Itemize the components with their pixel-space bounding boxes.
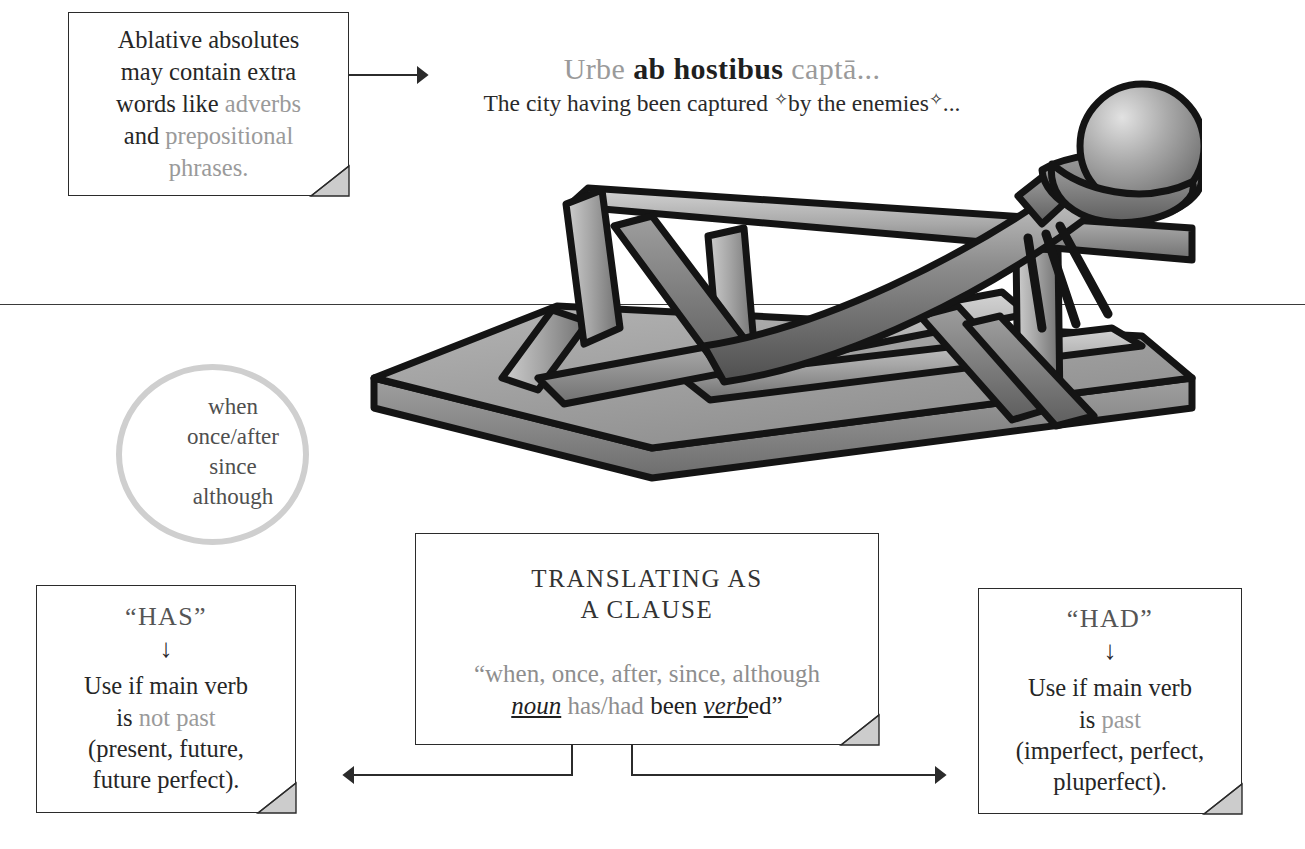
diamond-open-icon: ✧	[774, 90, 788, 109]
branch-horizontal-right	[631, 774, 933, 776]
clause-ed-suffix: ed	[748, 692, 772, 719]
clause-formula: “when, once, after, since, although noun…	[474, 658, 820, 722]
down-arrow-icon: ↓	[160, 636, 173, 662]
note-line-2: may contain extra	[121, 58, 297, 85]
clause-title-line-2: A CLAUSE	[531, 594, 762, 626]
had-body-line-2a: is	[1079, 706, 1101, 733]
has-body-line-2a: is	[116, 704, 138, 731]
has-box-body: Use if main verb is not past (present, f…	[74, 670, 258, 795]
example-sentence-block: Urbe ab hostibus captā... The city havin…	[402, 52, 1042, 117]
has-body-line-2b: not past	[139, 704, 216, 731]
catapult-illustration	[352, 78, 1202, 498]
latin-word-capta: captā...	[791, 52, 880, 85]
latin-sentence: Urbe ab hostibus captā...	[402, 52, 1042, 86]
note-line-4b: prepositional	[165, 122, 293, 149]
clause-conjunctions: when, once, after, since, although	[485, 660, 820, 687]
note-line-4a: and	[124, 122, 166, 149]
note-line-5: phrases.	[169, 154, 249, 181]
note-line-1: Ablative absolutes	[118, 26, 300, 53]
clause-noun-slot: noun	[511, 692, 561, 719]
has-box-title: “HAS”	[125, 602, 207, 632]
note-line-3a: words like	[116, 90, 225, 117]
note-line-3b: adverbs	[225, 90, 301, 117]
had-box-body: Use if main verb is past (imperfect, per…	[1006, 672, 1214, 797]
has-body-line-1: Use if main verb	[84, 670, 248, 701]
clause-verb-slot: verb	[704, 692, 748, 719]
arrowhead-right-icon	[926, 764, 948, 786]
translation-part-1: The city having been captured	[484, 90, 774, 116]
latin-phrase-ab-hostibus: ab hostibus	[633, 52, 783, 85]
note-has-rule: “HAS” ↓ Use if main verb is not past (pr…	[36, 585, 296, 813]
conjunction-although: although	[158, 482, 308, 512]
note-ablative-extras-text: Ablative absolutes may contain extra wor…	[100, 24, 317, 183]
clause-box-title: TRANSLATING AS A CLAUSE	[531, 563, 762, 626]
branch-horizontal-left	[358, 774, 573, 776]
conjunction-when: when	[158, 392, 308, 422]
clause-has-had: has/had	[561, 692, 650, 719]
note-ablative-extras: Ablative absolutes may contain extra wor…	[68, 12, 349, 196]
diamond-close-icon: ✧	[929, 90, 943, 109]
has-body-line-4: future perfect).	[84, 764, 248, 795]
clause-been: been	[650, 692, 703, 719]
diagram-canvas: Ablative absolutes may contain extra wor…	[0, 0, 1305, 849]
arrowhead-left-icon	[341, 764, 363, 786]
translation-part-3: ...	[943, 90, 961, 116]
had-body-line-1: Use if main verb	[1016, 672, 1204, 703]
latin-word-urbe: Urbe	[564, 52, 626, 85]
translation-part-2: by the enemies	[788, 90, 929, 116]
clause-close-quote: ”	[772, 692, 783, 719]
conjunction-once-after: once/after	[158, 422, 308, 452]
had-box-title: “HAD”	[1067, 604, 1153, 634]
down-arrow-icon: ↓	[1104, 638, 1117, 664]
clause-open-quote: “	[474, 660, 485, 687]
clause-title-line-1: TRANSLATING AS	[531, 563, 762, 595]
conjunction-list: when once/after since although	[158, 392, 308, 512]
conjunction-circle: when once/after since although	[116, 364, 309, 545]
had-body-line-3: (imperfect, perfect,	[1016, 735, 1204, 766]
conjunction-since: since	[158, 452, 308, 482]
had-body-line-2b: past	[1102, 706, 1141, 733]
english-translation: The city having been captured ✧by the en…	[402, 89, 1042, 117]
has-body-line-3: (present, future,	[84, 733, 248, 764]
note-translating-as-clause: TRANSLATING AS A CLAUSE “when, once, aft…	[415, 533, 879, 745]
note-had-rule: “HAD” ↓ Use if main verb is past (imperf…	[978, 588, 1242, 814]
had-body-line-4: pluperfect).	[1016, 766, 1204, 797]
